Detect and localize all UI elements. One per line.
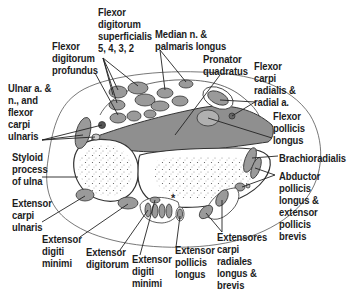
label-extensores-carpi-radiales: Extensores carpi radiales longus & brevi… [217, 231, 267, 291]
label-abductor-pollicis-longus-extensor-pollicis-brevis: Abductor pollicis longus & extensor poll… [279, 170, 320, 242]
label-flexor-pollicis-longus: Flexor pollicis longus [273, 110, 305, 146]
label-extensor-digitorum: Extensor digitorum [86, 246, 129, 270]
label-pronator-quadratus: Pronator quadratus [203, 53, 248, 77]
label-extensor-digiti-minimi-2: Extensor digiti minimi [132, 253, 172, 289]
lister-tubercle-marker: * [171, 192, 176, 204]
label-ulnar-artery-nerve-fcu: Ulnar a. & n., and flexor carpi ulnaris [8, 82, 51, 142]
label-median-nerve-palmaris-longus: Median n. & palmaris longus [155, 28, 226, 52]
label-styloid-process-of-ulna: Styloid process of ulna [12, 151, 48, 187]
label-extensor-carpi-ulnaris: Extensor carpi ulnaris [12, 197, 52, 233]
label-extensor-digiti-minimi-1: Extensor digiti minimi [42, 233, 82, 269]
label-flexor-digitorum-profundus: Flexor digitorum profundus [52, 40, 98, 76]
label-flexor-carpi-radialis-radial-artery: Flexor carpi radialis & radial a. [254, 60, 296, 108]
label-extensor-pollicis-longus: Extensor pollicis longus [175, 244, 215, 280]
label-brachioradialis: Brachioradialis [279, 152, 346, 164]
wrist-cross-section-diagram: * [0, 0, 355, 297]
label-flexor-digitorum-superficialis: Flexor digitorum superficialis 5, 4, 3, … [98, 6, 152, 54]
